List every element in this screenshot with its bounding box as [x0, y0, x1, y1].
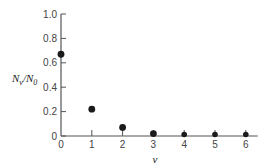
data-point [150, 130, 157, 137]
y-tick-label: 1.0 [43, 9, 57, 20]
data-point [88, 106, 95, 113]
axes: 00.20.40.60.81.00123456 [43, 9, 258, 151]
population-chart: 00.20.40.60.81.00123456 v Nv/N0 [0, 0, 270, 168]
y-tick-label: 0.2 [43, 106, 57, 117]
data-point [119, 124, 126, 131]
x-axis-label: v [153, 153, 158, 165]
x-tick-label: 6 [243, 139, 249, 150]
x-tick-label: 4 [181, 139, 187, 150]
y-axis-label: Nv/N0 [11, 72, 37, 87]
x-tick-label: 0 [58, 139, 64, 150]
data-points [58, 51, 249, 137]
data-point [243, 132, 249, 138]
y-tick-label: 0.8 [43, 33, 57, 44]
x-tick-label: 2 [120, 139, 126, 150]
data-point [212, 132, 218, 138]
x-tick-label: 5 [212, 139, 218, 150]
y-tick-label: 0 [51, 131, 57, 142]
x-tick-label: 3 [151, 139, 157, 150]
y-tick-label: 0.6 [43, 57, 57, 68]
y-tick-label: 0.4 [43, 82, 57, 93]
x-tick-label: 1 [89, 139, 95, 150]
data-point [58, 51, 65, 58]
data-point [181, 132, 187, 138]
